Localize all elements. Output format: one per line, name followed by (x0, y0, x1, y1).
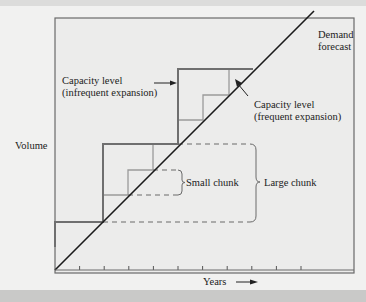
large-chunk-label: Large chunk (264, 177, 317, 189)
years-arrowhead (250, 280, 258, 285)
small-chunk-label: Small chunk (186, 177, 239, 189)
bottom-page-band (0, 290, 366, 302)
capacity-infrequent-label-line2: (infrequent expansion) (62, 87, 157, 99)
demand-forecast-label-line1: Demand (318, 29, 354, 41)
capacity-frequent-label-line2: (frequent expansion) (254, 111, 341, 123)
demand-forecast-label-line2: forecast (318, 41, 354, 53)
capacity-frequent-label: Capacity level (frequent expansion) (254, 99, 341, 123)
capacity-expansion-diagram (0, 0, 366, 302)
demand-forecast-label: Demand forecast (318, 29, 354, 53)
chart-frame (55, 18, 354, 273)
capacity-infrequent-label: Capacity level (infrequent expansion) (62, 75, 157, 99)
y-axis-label: Volume (15, 140, 47, 152)
capacity-infrequent-label-line1: Capacity level (62, 75, 157, 87)
x-axis-label: Years (203, 276, 226, 288)
capacity-frequent-label-line1: Capacity level (254, 99, 341, 111)
